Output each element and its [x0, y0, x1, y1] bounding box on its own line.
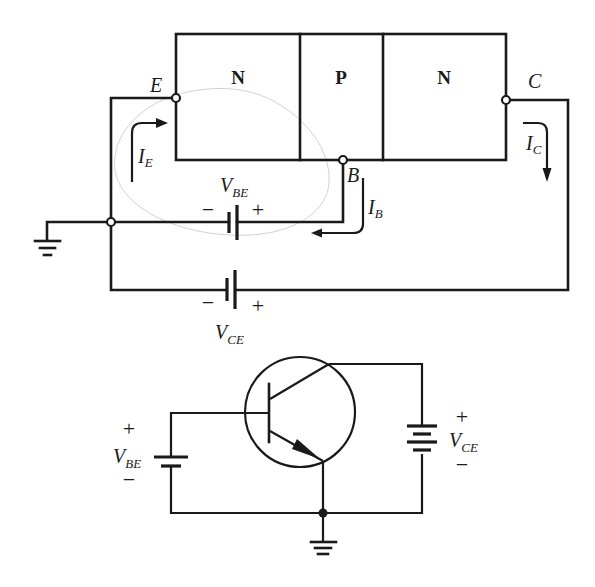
collector-wire	[329, 364, 422, 426]
vce-positive-sign: +	[252, 293, 264, 318]
ground-icon	[35, 241, 60, 255]
base-terminal-label: B	[347, 164, 359, 186]
base-terminal	[339, 156, 347, 164]
vce-label: VCE	[215, 321, 244, 347]
vbe-positive-sign: +	[252, 197, 264, 222]
emitter-terminal-label: E	[149, 74, 162, 96]
vce-negative-sign: −	[202, 290, 214, 315]
vce-positive-sign: +	[456, 404, 468, 429]
vbe-label: VBE	[220, 174, 248, 200]
collector-current-label: IC	[525, 132, 542, 157]
npn-transistor-diagram: N P N − + VBE − + VCE	[0, 0, 595, 587]
npn-block-diagram: N P N − + VBE − + VCE	[35, 34, 568, 347]
vce-battery-icon	[407, 426, 437, 450]
vbe-battery-icon	[154, 457, 188, 466]
vce-negative-sign: −	[456, 452, 468, 477]
junction-node	[319, 509, 328, 518]
collector-wire	[235, 100, 568, 290]
collector-terminal	[502, 96, 510, 104]
emitter-current-label: IE	[137, 145, 153, 170]
base-region-label: P	[335, 67, 347, 88]
common-node	[107, 218, 115, 226]
base-wire	[171, 413, 269, 456]
semiconductor-block	[176, 34, 506, 160]
vbe-positive-sign: +	[123, 416, 135, 441]
emitter-region-label: N	[231, 67, 245, 88]
vbe-negative-sign: −	[202, 197, 214, 222]
ground-return-wire	[171, 454, 422, 513]
emitter-wire	[111, 98, 235, 290]
npn-schematic: + VBE − + VCE −	[113, 357, 478, 554]
vbe-negative-sign: −	[123, 467, 135, 492]
base-current-label: IB	[367, 196, 383, 221]
collector-region-label: N	[437, 67, 451, 88]
emitter-terminal	[172, 94, 180, 102]
ground-icon	[311, 542, 336, 554]
ground-wire	[47, 222, 111, 240]
collector-terminal-label: C	[528, 70, 542, 92]
